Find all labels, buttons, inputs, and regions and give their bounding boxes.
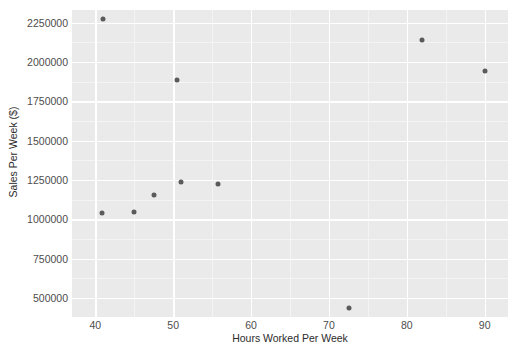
data-point [132,209,137,214]
y-axis-tick-label: 500000 [6,292,72,304]
gridline-major-horizontal [72,259,508,260]
gridline-minor-vertical [212,10,213,317]
gridline-minor-vertical [446,10,447,317]
gridline-major-vertical [95,10,96,317]
data-point [175,77,180,82]
x-axis-tick-label: 60 [245,319,257,331]
data-point [101,17,106,22]
gridline-major-horizontal [72,23,508,24]
gridline-minor-horizontal [72,200,508,201]
gridline-minor-horizontal [72,121,508,122]
gridline-minor-horizontal [72,82,508,83]
gridline-major-vertical [407,10,408,317]
x-axis-tick-label: 40 [90,319,102,331]
gridline-major-horizontal [72,298,508,299]
gridline-major-horizontal [72,219,508,220]
gridline-minor-vertical [290,10,291,317]
x-axis-tick-label: 90 [479,319,491,331]
x-axis-tick-label: 70 [323,319,335,331]
plot-panel [72,10,508,317]
data-point [347,305,352,310]
data-point [179,180,184,185]
gridline-minor-horizontal [72,278,508,279]
y-axis-tick-label: 2250000 [6,17,72,29]
x-axis-tick-label: 80 [401,319,413,331]
gridline-minor-vertical [368,10,369,317]
gridline-major-horizontal [72,180,508,181]
gridline-major-horizontal [72,141,508,142]
gridline-minor-horizontal [72,42,508,43]
gridline-major-horizontal [72,62,508,63]
gridline-major-vertical [485,10,486,317]
data-point [482,68,487,73]
y-axis-label: Sales Per Week ($) [7,67,19,237]
x-axis-label: Hours Worked Per Week [72,332,508,344]
gridline-minor-horizontal [72,239,508,240]
x-axis-tick-label: 50 [167,319,179,331]
data-point [151,192,156,197]
gridline-major-vertical [251,10,252,317]
gridline-major-vertical [329,10,330,317]
scatter-plot-figure: 5000007500001000000125000015000001750000… [0,0,516,351]
data-point [420,37,425,42]
data-point [99,211,104,216]
gridline-major-vertical [173,10,174,317]
y-axis-tick-label: 750000 [6,253,72,265]
gridline-minor-vertical [134,10,135,317]
gridline-minor-horizontal [72,160,508,161]
gridline-major-horizontal [72,101,508,102]
data-point [216,181,221,186]
